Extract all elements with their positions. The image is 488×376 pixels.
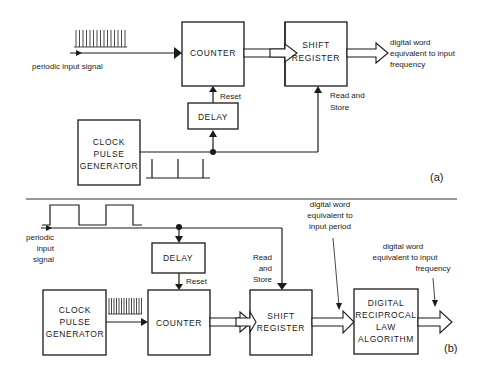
clock-pulse-train-a	[146, 159, 210, 178]
input-label-b-3: signal	[33, 255, 54, 264]
frequency-label-b-2: equivalent to input	[373, 253, 439, 262]
reset-arrow-icon-b	[175, 284, 183, 290]
reciprocal-label-b-4: ALGORITHM	[358, 334, 414, 344]
shift-register-label-a-2: REGISTER	[292, 53, 340, 63]
part-a: periodic input signal COUNTER SHIFT REGI…	[32, 22, 456, 185]
read-store-label-b-1: Read	[253, 253, 272, 262]
reset-arrow-icon-a	[209, 86, 217, 92]
counter-label-a: COUNTER	[190, 48, 236, 58]
input-label-b-2: input	[37, 244, 55, 253]
output-bus-arrow-a	[347, 43, 388, 63]
frequency-label-b-1: digital word	[383, 242, 423, 251]
input-arrow-icon	[76, 50, 82, 56]
clock-label-a-1: CLOCK	[93, 137, 125, 147]
read-store-label-b-3: Store	[253, 275, 273, 284]
delay-input-arrow-icon-b	[175, 236, 183, 243]
clock-label-a-2: PULSE	[94, 149, 125, 159]
counter-label-b: COUNTER	[156, 318, 202, 328]
panel-label-b: (b)	[444, 342, 457, 354]
reciprocal-label-b-3: LAW	[376, 322, 396, 332]
frequency-pointer-line	[433, 278, 435, 303]
period-pointer-arrow-icon	[336, 303, 342, 310]
frequency-label-b-3: frequency	[415, 264, 450, 273]
clock-label-b-1: CLOCK	[59, 305, 91, 315]
read-store-label-b-2: and	[259, 264, 272, 273]
output-label-a-2: equivalent to input	[390, 49, 456, 58]
delay-input-arrow-icon-a	[209, 130, 217, 137]
bus-arrow-shift-to-reciprocal-b	[312, 311, 354, 333]
read-store-arrow-icon-b	[277, 283, 287, 290]
counter-input-arrow-icon-b	[141, 318, 148, 326]
clock-pulse-train-b	[108, 298, 142, 314]
read-store-label-a-2: Store	[330, 103, 350, 112]
reciprocal-label-b-2: RECIPROCAL	[355, 310, 416, 320]
reset-label-a: Reset	[220, 92, 242, 101]
frequency-pointer-arrow-icon	[432, 300, 438, 307]
read-store-arrow-icon-a	[314, 86, 322, 93]
shift-register-label-b-1: SHIFT	[267, 311, 295, 321]
delay-label-a: DELAY	[198, 112, 228, 122]
reciprocal-label-b-1: DIGITAL	[368, 298, 405, 308]
counter-input-arrow-icon	[174, 47, 182, 59]
period-label-b-2: equivalent to	[307, 211, 353, 220]
frequency-counter-diagram: periodic input signal COUNTER SHIFT REGI…	[0, 0, 488, 376]
input-square-wave-b	[42, 205, 142, 225]
input-arrow-icon-b	[46, 225, 52, 231]
output-bus-arrow-b	[418, 311, 452, 333]
clock-label-a-3: GENERATOR	[80, 161, 138, 171]
clock-label-b-3: GENERATOR	[46, 329, 104, 339]
shift-register-label-b-2: REGISTER	[257, 323, 305, 333]
read-store-label-a-1: Read and	[330, 91, 365, 100]
output-label-a-3: frequency	[390, 60, 425, 69]
period-label-b-1: digital word	[310, 200, 350, 209]
input-label-b-1: periodic	[26, 233, 54, 242]
input-signal-label-a: periodic input signal	[32, 62, 103, 71]
period-label-b-3: input period	[309, 222, 351, 231]
input-pulse-train-a	[74, 30, 127, 47]
panel-label-a: (a)	[430, 171, 443, 183]
part-b: periodic input signal DELAY Reset CLOCK …	[26, 200, 457, 355]
delay-label-b: DELAY	[163, 253, 193, 263]
output-label-a-1: digital word	[390, 38, 430, 47]
shift-register-label-a-1: SHIFT	[302, 40, 330, 50]
period-pointer-line	[333, 238, 339, 306]
reset-label-b: Reset	[186, 277, 208, 286]
clock-label-b-2: PULSE	[60, 317, 91, 327]
